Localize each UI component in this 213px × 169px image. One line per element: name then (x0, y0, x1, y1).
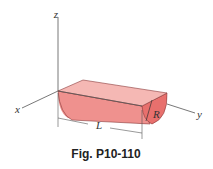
figure-caption: Fig. P10-110 (71, 147, 141, 161)
length-dim-right (110, 128, 142, 133)
half-cylinder-diagram: z x y L R Fig. P10-110 (0, 0, 213, 169)
x-label: x (14, 103, 20, 115)
length-label: L (95, 119, 102, 131)
z-label: z (53, 8, 59, 20)
y-axis-ext (167, 104, 195, 113)
radius-label: R (152, 108, 160, 120)
x-axis (22, 91, 58, 108)
y-label: y (196, 108, 202, 120)
